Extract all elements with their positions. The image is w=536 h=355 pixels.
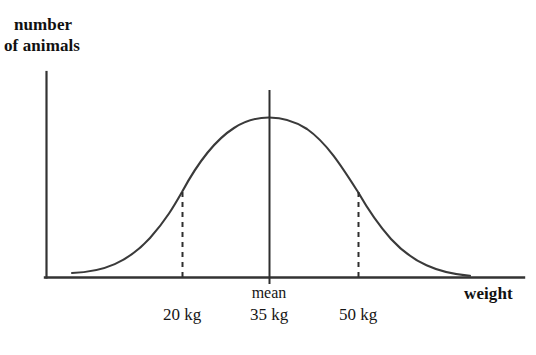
normal-distribution-curve bbox=[72, 118, 470, 276]
tick-label-mean: 35 kg bbox=[250, 305, 288, 325]
tick-label-lower: 20 kg bbox=[163, 305, 201, 325]
tick-label-upper: 50 kg bbox=[339, 305, 377, 325]
y-axis-label-line-1: number bbox=[14, 14, 72, 35]
mean-marker-label: mean bbox=[252, 283, 287, 303]
x-axis-label: weight bbox=[464, 283, 513, 304]
y-axis-label-line-2: of animals bbox=[4, 35, 80, 56]
bell-curve-figure: number of animals weight mean 20 kg 35 k… bbox=[0, 0, 536, 355]
